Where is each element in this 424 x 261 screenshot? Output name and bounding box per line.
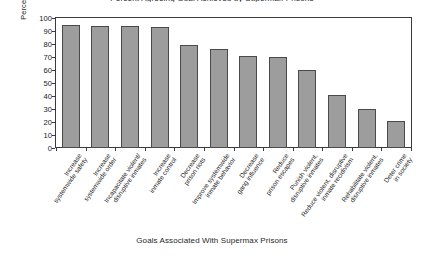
x-tick-mark [174, 148, 175, 151]
x-tick-mark [322, 148, 323, 151]
x-tick-mark [381, 148, 382, 151]
bar [151, 27, 169, 148]
bar-chart: Percent Agreeing Goal Achieved by Superm… [0, 0, 424, 261]
bar-slot [381, 18, 411, 148]
bar-slot [322, 18, 352, 148]
x-axis-ticks [56, 148, 411, 151]
bar-slot [204, 18, 234, 148]
x-tick-mark [115, 148, 116, 151]
bar-slot [233, 18, 263, 148]
bar-slot [86, 18, 116, 148]
bar-slot [174, 18, 204, 148]
bar-slot [293, 18, 323, 148]
x-tick-mark [352, 148, 353, 151]
bars-layer [56, 18, 411, 148]
x-tick-mark [263, 148, 264, 151]
bar [387, 121, 405, 148]
bar [121, 26, 139, 148]
bar-slot [56, 18, 86, 148]
bar-slot [352, 18, 382, 148]
x-tick-mark [204, 148, 205, 151]
bar [358, 109, 376, 148]
bar [298, 70, 316, 148]
bar-slot [145, 18, 175, 148]
chart-title: Percent Agreeing Goal Achieved by Superm… [0, 0, 424, 2]
x-tick-mark [411, 148, 412, 151]
bar [180, 45, 198, 148]
bar [269, 57, 287, 148]
y-axis-title: Percent Agreeing Goal Achieved [18, 0, 30, 30]
bar [91, 26, 109, 148]
bar [62, 25, 80, 149]
x-tick-mark [234, 148, 235, 151]
x-axis-title: Goals Associated With Supermax Prisons [0, 236, 424, 245]
x-tick-mark [86, 148, 87, 151]
bar [210, 49, 228, 148]
bar-slot [263, 18, 293, 148]
x-tick-mark [293, 148, 294, 151]
bar [328, 95, 346, 148]
x-tick-mark [145, 148, 146, 151]
x-tick-mark [56, 148, 57, 151]
x-axis-category-labels: Increase systemwide safetyIncrease syste… [56, 152, 411, 222]
y-axis-ticks: 1009080706050403020100 [30, 18, 55, 148]
bar [239, 56, 257, 148]
bar-slot [115, 18, 145, 148]
